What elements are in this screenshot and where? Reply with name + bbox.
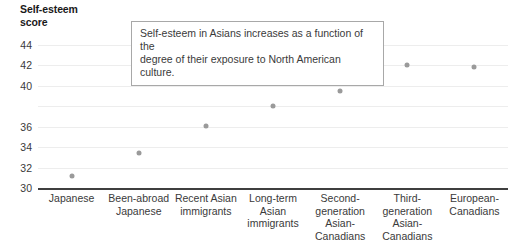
x-axis-category-label: Recent Asianimmigrants [172,192,239,217]
x-axis-category-label-line: European- [441,192,508,205]
x-axis-category-label-line: Canadians [374,230,441,243]
annotation-callout: Self-esteem in Asians increases as a fun… [131,21,384,86]
gridline [38,147,508,148]
x-axis-category-label: Japanese [38,192,105,205]
x-axis-category-label-line: Japanese [38,192,105,205]
x-axis-category-label-line: Recent Asian [172,192,239,205]
chart-container: Self-esteemscore 44424036343230 Japanese… [0,0,521,252]
y-axis-tick-label: 42 [4,60,32,71]
y-axis-tick-label: 40 [4,81,32,92]
x-axis-category-label-line: Canadians [307,230,374,243]
x-axis-category-label-line: Long-term [239,192,306,205]
y-axis-tick-label: 30 [4,183,32,194]
gridline [38,127,508,128]
chart-title-line: score [20,16,130,29]
x-axis-category-label-line: Been-abroad [105,192,172,205]
x-axis-category-label-line: Japanese [105,205,172,218]
x-axis-category-label: Long-termAsianimmigrants [239,192,306,230]
x-axis-category-label: Second-generationAsian-Canadians [307,192,374,242]
annotation-line: degree of their exposure to North Americ… [140,53,375,79]
data-point [203,123,208,128]
y-axis-tick-label: 32 [4,163,32,174]
x-axis-category-label-line: Third- [374,192,441,205]
x-axis-category-label-line: generation [307,205,374,218]
x-axis-category-label-line: Second- [307,192,374,205]
x-axis-category-label-line: Asian- [307,217,374,230]
y-axis-tick-labels: 44424036343230 [0,45,32,191]
gridline [38,168,508,169]
chart-title-line: Self-esteem [20,3,130,16]
x-axis-category-label: Been-abroadJapanese [105,192,172,217]
data-point [69,173,74,178]
data-point [472,65,477,70]
x-axis-category-label-line: immigrants [172,205,239,218]
x-axis-category-label-line: Asian- [374,217,441,230]
x-axis-category-label-line: Asian [239,205,306,218]
chart-title: Self-esteemscore [20,3,130,29]
data-point [136,151,141,156]
annotation-line: Self-esteem in Asians increases as a fun… [140,27,375,53]
y-axis-tick-label: 34 [4,142,32,153]
x-axis-category-label-line: generation [374,205,441,218]
x-axis-category-label: Third-generationAsian-Canadians [374,192,441,242]
x-axis-category-label: European-Canadians [441,192,508,217]
data-point [405,63,410,68]
x-axis-category-labels: JapaneseBeen-abroadJapaneseRecent Asiani… [38,192,508,252]
x-axis-line [38,188,508,190]
data-point [271,104,276,109]
y-axis-tick-label: 44 [4,40,32,51]
x-axis-category-label-line: immigrants [239,217,306,230]
data-point [338,88,343,93]
x-axis-category-label-line: Canadians [441,205,508,218]
y-axis-tick-label: 36 [4,122,32,133]
